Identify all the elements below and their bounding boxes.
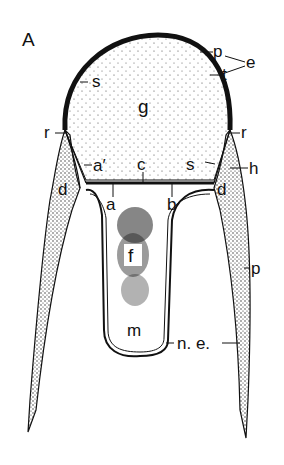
label-ne: n. e. [177,334,210,353]
left-arm [28,130,80,432]
label-e: e [246,53,255,72]
label-h: h [249,159,258,178]
right-arm [214,130,250,438]
label-b: b [167,195,176,214]
label-t: t [222,65,227,84]
label-p-right: p [251,259,260,278]
label-f: f [128,245,134,266]
label-a-prime: a′ [93,156,106,175]
label-g: g [138,96,149,117]
label-p-top: p [213,42,222,61]
label-r-right: r [241,123,247,142]
label-s-right: s [186,155,195,174]
panel-label: A [22,29,35,50]
label-a: a [106,195,116,214]
label-s-left: s [92,72,101,91]
diagram-canvas: A p e t s g r r a′ c s h d d a b f p m n… [0,0,284,465]
label-c: c [137,155,146,174]
label-d-right: d [217,180,226,199]
label-m: m [127,321,141,340]
label-r-left: r [44,123,50,142]
label-d-left: d [58,180,67,199]
